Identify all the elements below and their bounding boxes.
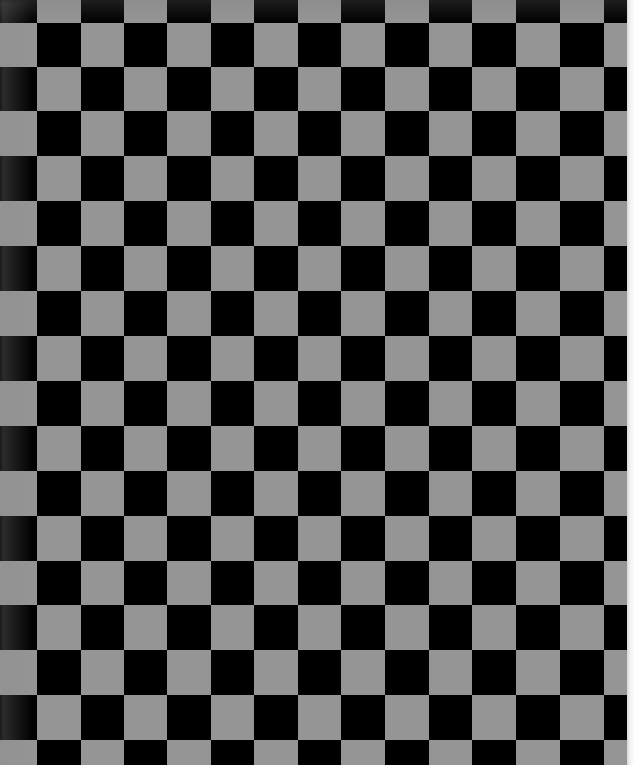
light-square: [0, 650, 37, 695]
light-square: [341, 561, 385, 605]
light-square: [385, 156, 429, 201]
light-square: [429, 111, 472, 156]
dark-square: [298, 381, 341, 426]
dark-square: [604, 605, 628, 650]
dark-square: [124, 381, 167, 426]
dark-square: [211, 23, 254, 67]
dark-square: [37, 381, 81, 426]
light-square: [37, 156, 81, 201]
light-square: [81, 291, 124, 336]
light-square: [167, 23, 211, 67]
dark-square: [167, 336, 211, 381]
dark-square: [472, 23, 516, 67]
light-square: [516, 381, 560, 426]
light-square: [516, 471, 560, 516]
light-square: [254, 23, 298, 67]
light-square: [81, 111, 124, 156]
dark-square: [560, 23, 604, 67]
dark-square: [560, 381, 604, 426]
dark-square: [0, 67, 37, 111]
light-square: [298, 156, 341, 201]
light-square: [560, 0, 604, 23]
dark-square: [604, 516, 628, 561]
dark-square: [0, 695, 37, 740]
light-square: [167, 381, 211, 426]
light-square: [516, 561, 560, 605]
dark-square: [516, 426, 560, 471]
light-square: [254, 561, 298, 605]
dark-square: [167, 516, 211, 561]
light-square: [472, 0, 516, 23]
dark-square: [167, 67, 211, 111]
dark-square: [429, 516, 472, 561]
light-square: [516, 650, 560, 695]
light-square: [472, 67, 516, 111]
light-square: [604, 650, 628, 695]
dark-square: [385, 740, 429, 765]
light-square: [167, 740, 211, 765]
dark-square: [254, 246, 298, 291]
dark-square: [341, 336, 385, 381]
light-square: [341, 381, 385, 426]
light-square: [385, 336, 429, 381]
dark-square: [385, 561, 429, 605]
dark-square: [604, 67, 628, 111]
light-square: [341, 23, 385, 67]
dark-square: [37, 471, 81, 516]
dark-square: [37, 561, 81, 605]
light-square: [37, 0, 81, 23]
light-square: [211, 516, 254, 561]
light-square: [167, 201, 211, 246]
light-square: [429, 23, 472, 67]
light-square: [37, 695, 81, 740]
light-square: [604, 381, 628, 426]
dark-square: [37, 201, 81, 246]
dark-square: [81, 156, 124, 201]
light-square: [604, 111, 628, 156]
light-square: [560, 246, 604, 291]
dark-square: [124, 291, 167, 336]
light-square: [516, 201, 560, 246]
dark-square: [429, 156, 472, 201]
light-square: [124, 695, 167, 740]
light-square: [37, 336, 81, 381]
dark-square: [211, 381, 254, 426]
dark-square: [516, 0, 560, 23]
dark-square: [472, 740, 516, 765]
light-square: [0, 740, 37, 765]
light-square: [211, 336, 254, 381]
dark-square: [211, 561, 254, 605]
light-square: [604, 201, 628, 246]
dark-square: [385, 650, 429, 695]
light-square: [560, 336, 604, 381]
dark-square: [124, 740, 167, 765]
dark-square: [81, 426, 124, 471]
light-square: [472, 246, 516, 291]
dark-square: [560, 740, 604, 765]
dark-square: [429, 695, 472, 740]
dark-square: [37, 291, 81, 336]
light-square: [472, 336, 516, 381]
light-square: [81, 201, 124, 246]
light-square: [81, 561, 124, 605]
dark-square: [385, 291, 429, 336]
light-square: [385, 695, 429, 740]
light-square: [385, 426, 429, 471]
dark-square: [167, 156, 211, 201]
light-square: [604, 291, 628, 336]
light-square: [429, 561, 472, 605]
light-square: [124, 516, 167, 561]
light-square: [560, 156, 604, 201]
light-square: [81, 381, 124, 426]
dark-square: [516, 695, 560, 740]
light-square: [37, 426, 81, 471]
dark-square: [560, 650, 604, 695]
light-square: [298, 0, 341, 23]
dark-square: [167, 605, 211, 650]
dark-square: [472, 650, 516, 695]
light-square: [0, 561, 37, 605]
light-square: [298, 605, 341, 650]
light-square: [604, 471, 628, 516]
dark-square: [341, 516, 385, 561]
dark-square: [385, 111, 429, 156]
